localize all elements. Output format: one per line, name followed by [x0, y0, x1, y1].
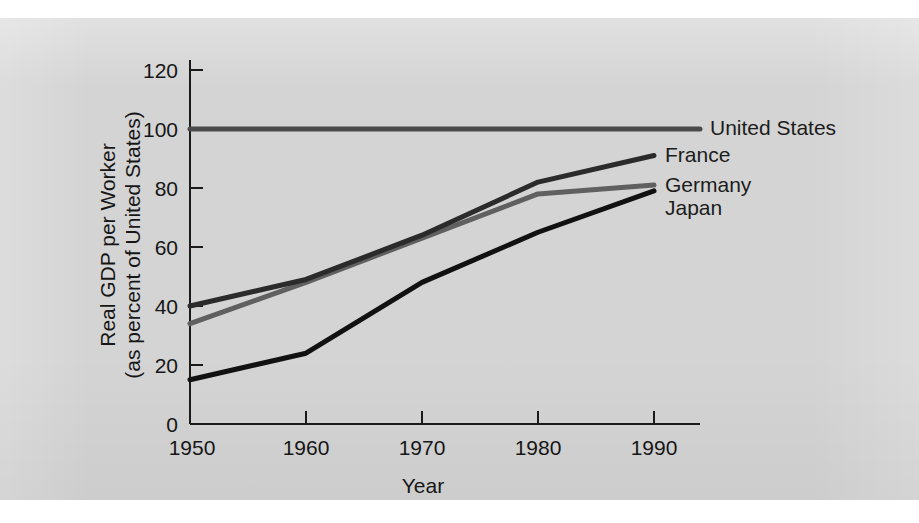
series-lines	[190, 129, 700, 380]
y-axis-title-line1: Real GDP per Worker	[96, 143, 119, 346]
y-tick-label-100: 100	[143, 118, 178, 141]
series-line-japan	[190, 191, 654, 380]
x-axis-title: Year	[402, 474, 444, 497]
x-tick-label-1970: 1970	[399, 436, 446, 459]
y-tick-label-80: 80	[155, 177, 178, 200]
x-tick-label-1990: 1990	[631, 436, 678, 459]
x-tick-label-1960: 1960	[283, 436, 330, 459]
line-chart: 120 100 80 60 40 20 0 1950 1960 1970 198…	[0, 0, 919, 523]
x-tick-label-1950: 1950	[169, 436, 216, 459]
y-tick-label-0: 0	[166, 413, 178, 436]
figure-root: 120 100 80 60 40 20 0 1950 1960 1970 198…	[0, 0, 919, 523]
series-label-japan: Japan	[665, 196, 722, 219]
series-line-germany	[190, 185, 654, 324]
y-tick-label-120: 120	[143, 59, 178, 82]
series-label-france: France	[665, 143, 730, 166]
y-tick-label-20: 20	[155, 354, 178, 377]
series-label-germany: Germany	[665, 173, 752, 196]
x-ticks	[306, 411, 654, 424]
axes	[190, 60, 700, 424]
y-tick-labels: 120 100 80 60 40 20 0	[143, 59, 178, 436]
y-tick-label-60: 60	[155, 236, 178, 259]
y-tick-label-40: 40	[155, 295, 178, 318]
x-tick-labels: 1950 1960 1970 1980 1990	[169, 436, 678, 459]
series-label-united-states: United States	[710, 116, 836, 139]
x-tick-label-1980: 1980	[515, 436, 562, 459]
y-axis-title-line2: (as percent of United States)	[121, 111, 144, 378]
